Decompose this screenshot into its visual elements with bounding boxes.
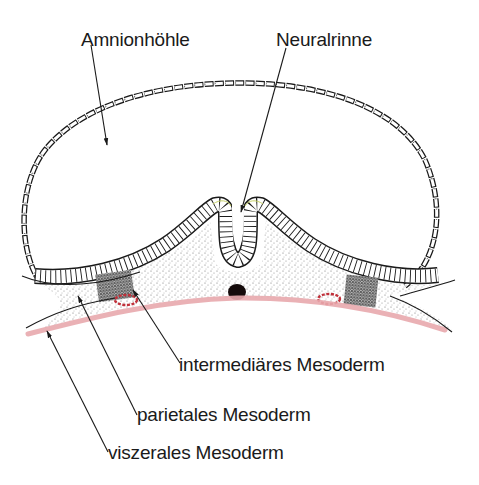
arrow-amnion bbox=[91, 45, 107, 145]
label-parietal-mesoderm: parietales Mesoderm bbox=[137, 405, 311, 424]
embryo-cross-section-diagram: Amnionhöhle Neuralrinne intermediäres Me… bbox=[0, 0, 479, 485]
label-amnion: Amnionhöhle bbox=[81, 30, 190, 49]
arrow-visceral-mesoderm bbox=[47, 331, 108, 452]
label-intermediate-mesoderm: intermediäres Mesoderm bbox=[179, 355, 385, 374]
intermediate-mesoderm-right bbox=[344, 274, 379, 307]
label-visceral-mesoderm: viszerales Mesoderm bbox=[108, 443, 284, 462]
arrow-neural-groove bbox=[241, 48, 286, 212]
label-neural-groove: Neuralrinne bbox=[276, 30, 372, 49]
